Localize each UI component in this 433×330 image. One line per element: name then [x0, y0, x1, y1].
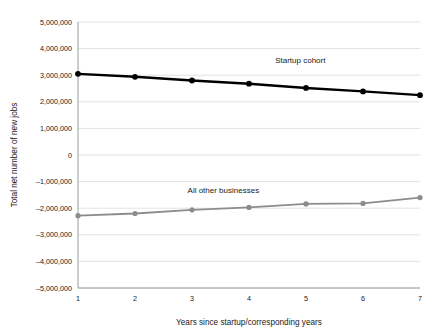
y-tick-label-6: –1,000,000: [36, 177, 72, 186]
y-tick-label-10: –5,000,000: [36, 284, 72, 293]
y-tick-label-4: 1,000,000: [40, 124, 72, 133]
y-tick-label-5: 0: [68, 151, 72, 160]
data-point-marker: [360, 89, 366, 95]
y-tick-label-0: 5,000,000: [40, 18, 72, 27]
y-axis-title: Total net number of new jobs: [10, 103, 19, 208]
x-tick-label-4: 5: [304, 294, 308, 303]
y-tick-label-3: 2,000,000: [40, 97, 72, 106]
data-point-marker: [75, 71, 81, 77]
x-tick-label-6: 7: [418, 294, 422, 303]
y-tick-label-1: 4,000,000: [40, 44, 72, 53]
x-tick-label-2: 3: [190, 294, 194, 303]
data-point-marker: [417, 195, 422, 200]
data-point-marker: [132, 211, 137, 216]
data-point-marker: [417, 92, 423, 98]
x-tick-label-0: 1: [76, 294, 80, 303]
x-axis-title: Years since startup/corresponding years: [176, 318, 322, 327]
data-point-marker: [246, 205, 251, 210]
data-point-marker: [246, 81, 252, 87]
data-point-marker: [303, 201, 308, 206]
y-tick-label-7: –2,000,000: [36, 204, 72, 213]
data-point-marker: [189, 78, 195, 84]
x-tick-label-3: 4: [247, 294, 251, 303]
chart-container: 5,000,0004,000,0003,000,0002,000,0001,00…: [0, 0, 433, 330]
x-tick-label-5: 6: [361, 294, 365, 303]
y-tick-label-8: –3,000,000: [36, 230, 72, 239]
data-point-marker: [189, 207, 194, 212]
y-tick-label-2: 3,000,000: [40, 71, 72, 80]
series-label-0: Startup cohort: [275, 56, 326, 65]
x-tick-label-1: 2: [133, 294, 137, 303]
series-label-1: All other businesses: [188, 186, 260, 195]
data-point-marker: [75, 213, 80, 218]
y-tick-label-9: –4,000,000: [36, 257, 72, 266]
data-point-marker: [303, 85, 309, 91]
data-point-marker: [132, 74, 138, 80]
data-point-marker: [360, 201, 365, 206]
line-chart: 5,000,0004,000,0003,000,0002,000,0001,00…: [0, 0, 433, 330]
